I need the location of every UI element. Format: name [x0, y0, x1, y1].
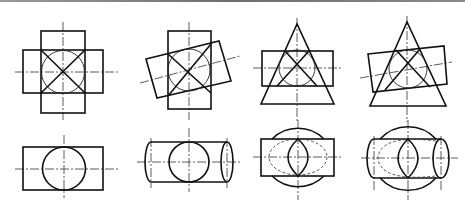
intersection-line-a: [396, 50, 430, 87]
inscribed-sphere: [389, 50, 427, 88]
top-view-4: [360, 16, 452, 122]
cylinder-outline: [262, 51, 333, 86]
bottom-view-3: [253, 120, 343, 200]
top-view-3: [253, 18, 343, 122]
bottom-view-1: [15, 135, 118, 198]
cylinder-outline: [261, 139, 334, 176]
engineering-drawing: [0, 0, 465, 211]
cylinder-outline: [23, 147, 103, 190]
top-view-1: [15, 22, 118, 120]
bottom-view-4: [361, 120, 458, 200]
top-view-2: [140, 22, 240, 120]
bottom-view-2: [137, 128, 240, 192]
left-end-arc: [367, 139, 374, 178]
